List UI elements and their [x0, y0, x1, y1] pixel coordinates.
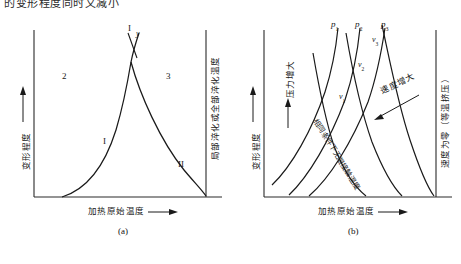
panel-b-y-axis-label-right: 速度为零（等温挤压）: [441, 74, 450, 168]
panel-a-caption: (a): [118, 226, 128, 236]
panel-a: [20, 30, 222, 215]
panel-b-p3-subscript: 3: [386, 26, 389, 32]
panel-b-curve-label-p3: p3: [381, 14, 389, 32]
panel-b-curve-v2: [346, 33, 402, 196]
panel-b-curve-label-v2: v2: [358, 54, 364, 73]
panel-b-p2-subscript: 2: [360, 26, 363, 32]
panel-b-v3-subscript: 3: [376, 41, 379, 47]
panel-b-curve-label-v3: v3: [372, 29, 378, 48]
panel-a-curve-falling: [131, 62, 206, 196]
panel-b-v2-subscript: 2: [362, 66, 365, 72]
panel-b-caption: (b): [348, 226, 359, 236]
panel-b-speed-arrow: [374, 95, 419, 120]
figure-canvas: [0, 0, 461, 264]
panel-b-x-axis-arrow: [378, 209, 408, 215]
panel-a-x-axis-label: 加热原始温度: [88, 207, 144, 216]
panel-b-pressure-arrow: [285, 98, 291, 128]
panel-b-v1-subscript: 1: [343, 98, 346, 104]
panel-a-region-label-2: 2: [62, 72, 67, 81]
panel-b-curve-label-p2: p2: [355, 14, 363, 32]
panel-b-y-axis-arrow: [250, 86, 256, 122]
panel-b-curve-label-p1: p1: [331, 14, 339, 32]
panel-b-curve-p1: [272, 28, 338, 185]
panel-b-curve-label-v1: v1: [339, 86, 345, 105]
panel-b-x-axis-label: 加热原始温度: [318, 207, 374, 216]
panel-a-y-axis-arrow: [20, 86, 26, 122]
panel-a-curve-label-y: y: [136, 30, 140, 38]
panel-b-pressure-label: 压力增大: [286, 60, 295, 98]
panel-b-p1-subscript: 1: [336, 26, 339, 32]
panel-a-x-axis-arrow: [148, 209, 178, 215]
panel-b-y-axis-label-left: 变形程度: [252, 132, 261, 170]
panel-a-y-axis-label-left: 变形程度: [22, 132, 31, 170]
panel-a-region-label-3: 3: [166, 72, 171, 81]
panel-a-region-label-I: I: [103, 137, 106, 146]
panel-a-curve-rising: [62, 62, 131, 197]
panel-a-y-axis-label-right: 局部淬化或全部淬化温度: [211, 57, 220, 160]
panel-a-curve-label-I: I: [128, 24, 131, 33]
panel-a-region-label-II: II: [178, 160, 184, 169]
